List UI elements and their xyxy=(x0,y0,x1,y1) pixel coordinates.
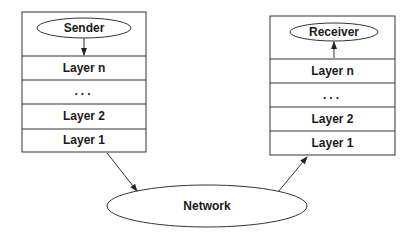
sender-layer-1: Layer 1 xyxy=(22,133,146,147)
sender-layer-n: Layer n xyxy=(22,61,146,75)
sender-layer-2: Layer 2 xyxy=(22,109,146,123)
receiver-layer-ellipsis: ... xyxy=(270,88,395,102)
sender-label: Sender xyxy=(37,21,131,35)
receiver-label: Receiver xyxy=(290,25,378,39)
sender-layer-ellipsis: ... xyxy=(22,84,146,98)
arrow-network-to-receiver xyxy=(278,157,307,192)
receiver-layer-n: Layer n xyxy=(270,64,395,78)
arrow-sender-to-network xyxy=(107,153,137,191)
receiver-layer-1: Layer 1 xyxy=(270,136,395,150)
receiver-layer-2: Layer 2 xyxy=(270,112,395,126)
network-label: Network xyxy=(157,199,257,213)
